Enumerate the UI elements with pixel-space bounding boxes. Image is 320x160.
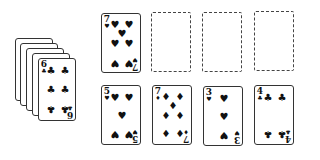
foundation-card-7-hearts[interactable]: 7♥ 7♥ ♥ ♥ ♥ ♥ ♥ ♥ ♥ — [101, 13, 141, 73]
club-icon: ♣ — [46, 66, 56, 76]
heart-icon: ♥ — [110, 93, 120, 103]
heart-icon: ♥ — [117, 111, 127, 121]
heart-icon: ♥ — [110, 39, 120, 49]
diamond-icon: ♦ — [161, 129, 171, 139]
club-icon: ♣ — [263, 129, 273, 139]
heart-icon: ♥ — [124, 39, 134, 49]
heart-icon: ♥ — [219, 112, 229, 122]
heart-icon: ♥ — [219, 130, 229, 140]
heart-icon: ♥ — [219, 94, 229, 104]
club-icon: ♣ — [277, 93, 287, 103]
empty-foundation-slot[interactable] — [151, 12, 191, 72]
club-icon: ♣ — [60, 85, 70, 95]
club-icon: ♣ — [277, 129, 287, 139]
diamond-icon: ♦ — [175, 129, 185, 139]
empty-foundation-slot[interactable] — [202, 12, 242, 72]
stock-top-card[interactable]: 6♣ 6♣ ♣ ♣ ♣ ♣ ♣ ♣ — [38, 58, 76, 121]
club-icon: ♣ — [46, 85, 56, 95]
club-icon: ♣ — [263, 93, 273, 103]
card-corner: 3♥ — [233, 130, 241, 144]
heart-icon: ♥ — [110, 58, 120, 68]
tableau-card-4-clubs[interactable]: 4♣ 4♣ ♣ ♣ ♣ ♣ — [254, 85, 294, 145]
tableau-card-5-hearts[interactable]: 5♥ 5♥ ♥ ♥ ♥ ♥ ♥ — [101, 85, 141, 145]
heart-icon: ♥ — [124, 93, 134, 103]
empty-foundation-slot[interactable] — [254, 11, 294, 71]
heart-icon: ♥ — [110, 129, 120, 139]
tableau-card-3-hearts[interactable]: 3♥ 3♥ ♥ ♥ ♥ — [203, 86, 243, 146]
tableau-card-7-diamonds[interactable]: 7♦ 7♦ ♦ ♦ ♦ ♦ ♦ ♦ ♦ — [152, 85, 192, 145]
heart-icon: ♥ — [124, 58, 134, 68]
club-icon: ♣ — [60, 66, 70, 76]
card-corner: 3♥ — [205, 88, 213, 102]
club-icon: ♣ — [60, 104, 70, 114]
diamond-icon: ♦ — [175, 111, 185, 121]
club-icon: ♣ — [46, 104, 56, 114]
diamond-icon: ♦ — [161, 111, 171, 121]
heart-icon: ♥ — [124, 129, 134, 139]
